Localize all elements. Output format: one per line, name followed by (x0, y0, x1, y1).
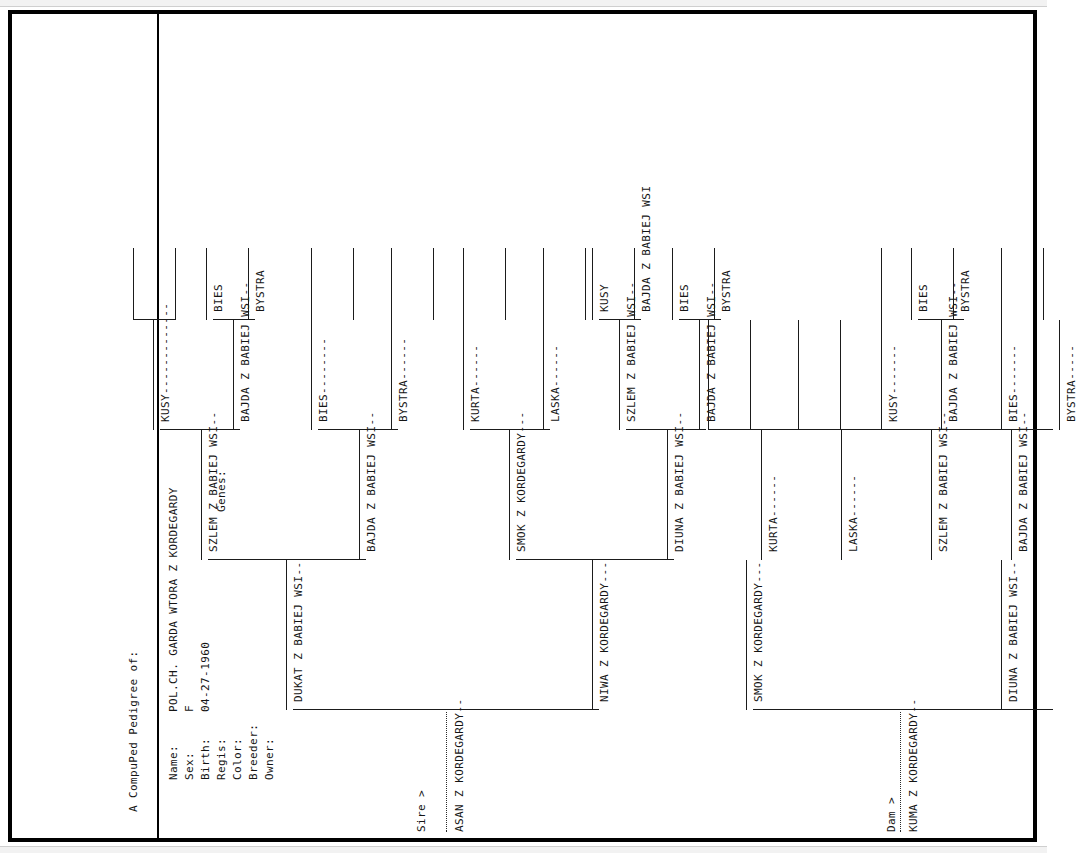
sire-marker: Sire > (416, 790, 427, 832)
rule-leaf-s1 (133, 248, 134, 320)
leaf-d-bystra: BYSTRA (960, 270, 971, 312)
rule-d-bajda2 (941, 320, 942, 430)
node-szlem-2: SZLEM Z BABIEJ WSI-- (626, 282, 637, 422)
rule-d-g4-3 (798, 320, 799, 430)
node-d-laska: LASKA------ (848, 475, 859, 552)
bracket-d-kurta (708, 429, 798, 430)
rule-leaf-s9 (543, 248, 544, 320)
bracket-d-bajda2 (918, 319, 964, 320)
leaf-bies-1: BIES (213, 284, 224, 312)
bracket-kusy-1 (133, 319, 175, 320)
field-value-sex: F (184, 705, 195, 712)
rule-d-szlem (931, 430, 932, 560)
rule-leaf-bajda (634, 248, 635, 320)
field-label-birth: Birth: (200, 738, 211, 780)
rule-leaf-kusy (592, 248, 593, 320)
node-bies-1: BIES-------- (318, 338, 329, 422)
pedigree-stage: A CompuPed Pedigree of: Name: POL.CH. GA… (8, 10, 1037, 842)
node-diuna-1: DIUNA Z BABIEJ WSI-- (674, 412, 685, 552)
rule-dukat (286, 560, 287, 710)
node-bajda-1: BAJDA Z BABIEJ WSI-- (366, 412, 377, 552)
rule-leaf-bystra-2 (714, 248, 715, 320)
field-value-name: POL.CH. GARDA WTORA Z KORDEGARDY (168, 487, 179, 712)
dam-marker: Dam > (886, 797, 897, 832)
producer-line: A CompuPed Pedigree of: (128, 650, 139, 812)
rule-leaf-s5 (391, 248, 392, 320)
rule-leaf-s10 (585, 248, 586, 320)
rule-leaf-s3 (311, 248, 312, 320)
node-d-kusy: KUSY------- (888, 345, 899, 422)
rule-leaf-bies-1 (206, 248, 207, 320)
node-d-diuna: DIUNA Z BABIEJ WSI-- (1008, 562, 1019, 702)
field-value-birth: 04-27-1960 (200, 642, 211, 712)
rule-bystra-1 (391, 320, 392, 430)
rule-d-kusy (881, 320, 882, 430)
leader-sire-root (446, 712, 447, 832)
rule-d-laska (841, 430, 842, 560)
bracket-dukat (208, 559, 366, 560)
bracket-d-szlem (888, 429, 978, 430)
bracket-niwa (516, 559, 674, 560)
rule-d-leaf-3 (1043, 248, 1044, 320)
rule-niwa (592, 560, 593, 710)
node-d-bies: BIES------- (1008, 345, 1019, 422)
node-d-smok: SMOK Z KORDEGARDY--- (753, 562, 764, 702)
rule-szlem-2 (619, 320, 620, 430)
field-label-name: Name: (168, 745, 179, 780)
bracket-d-laska (798, 429, 888, 430)
node-smok-1: SMOK Z KORDEGARDY--- (516, 412, 527, 552)
node-kusy-1: KUSY------------- (160, 303, 171, 422)
rule-d-leaf-1 (881, 248, 882, 320)
rule-d-leaf-2 (1001, 248, 1002, 320)
field-label-owner: Owner: (264, 738, 275, 780)
bracket-szlem-1 (160, 429, 240, 430)
node-d-szlem: SZLEM Z BABIEJ WSI-- (938, 412, 949, 552)
node-bajda-2: BAJDA Z BABIEJ WSI-- (240, 282, 251, 422)
node-sire-root: ASAN Z KORDEGARDY-- (454, 699, 465, 832)
rule-d-bajda (1011, 430, 1012, 560)
rule-laska-1 (543, 320, 544, 430)
rule-leaf-s2 (175, 248, 176, 320)
rule-kurta-1 (463, 320, 464, 430)
rule-d-kurta (761, 430, 762, 560)
node-d-bajda: BAJDA Z BABIEJ WSI-- (1018, 412, 1029, 552)
field-label-color: Color: (232, 738, 243, 780)
rule-leaf-bystra-1 (248, 248, 249, 320)
rule-d-bystra (1059, 320, 1060, 430)
bracket-diuna-1 (626, 429, 706, 430)
rule-d-bies (1001, 320, 1002, 430)
leaf-bajda: BAJDA Z BABIEJ WSI (641, 186, 652, 312)
rule-d-leaf-bies (911, 248, 912, 320)
leader-dam-root (900, 712, 901, 832)
rule-d-g4-2 (750, 320, 751, 430)
bracket-sire-root (293, 709, 599, 710)
leaf-d-bies: BIES (918, 284, 929, 312)
rule-szlem-1 (201, 430, 202, 560)
rule-bajda-2 (233, 320, 234, 430)
rule-d-g4-4 (840, 320, 841, 430)
bracket-bajda-1 (318, 429, 398, 430)
field-label-regis: Regis: (216, 738, 227, 780)
rule-diuna-1 (667, 430, 668, 560)
leaf-bystra-1: BYSTRA (255, 270, 266, 312)
node-dukat: DUKAT Z BABIEJ WSI-- (293, 562, 304, 702)
rule-d-leaf-bystra (953, 248, 954, 320)
rule-d-smok (746, 560, 747, 710)
scan-edge-bottom (0, 846, 1047, 853)
node-d-bystra: BYSTRA----- (1066, 345, 1077, 422)
node-niwa: NIWA Z KORDEGARDY--- (599, 562, 610, 702)
rule-kusy-1 (153, 320, 154, 430)
rule-bajda-3 (699, 320, 700, 430)
field-label-breeder: Breeder: (248, 724, 259, 780)
node-kurta-1: KURTA------ (470, 345, 481, 422)
field-label-sex: Sex: (184, 752, 195, 780)
scan-edge-top (0, 0, 1047, 7)
leaf-bystra-2: BYSTRA (721, 270, 732, 312)
rule-smok-1 (509, 430, 510, 560)
bracket-dam-root (753, 709, 1053, 710)
node-d-kurta: KURTA------ (768, 475, 779, 552)
rule-leaf-s6 (433, 248, 434, 320)
rule-bies-1 (311, 320, 312, 430)
leaf-kusy: KUSY (599, 284, 610, 312)
